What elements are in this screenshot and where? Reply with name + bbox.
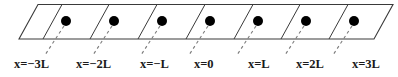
site-position-label-4: x=L xyxy=(248,58,270,71)
lattice-site-dot-3 xyxy=(205,16,215,26)
site-position-label-3: x=0 xyxy=(194,58,214,71)
site-position-label-1: x=−2L xyxy=(76,58,111,71)
lattice-site-dot-6 xyxy=(349,16,359,26)
site-position-label-0: x=−3L xyxy=(14,58,49,71)
site-position-label-6: x=3L xyxy=(352,58,380,71)
lattice-site-dot-5 xyxy=(301,16,311,26)
lattice-site-dot-1 xyxy=(109,16,119,26)
lattice-site-dot-4 xyxy=(253,16,263,26)
site-position-label-2: x=−L xyxy=(140,58,169,71)
site-position-label-5: x=2L xyxy=(296,58,324,71)
lattice-site-dot-0 xyxy=(61,16,71,26)
lattice-site-dot-2 xyxy=(157,16,167,26)
lattice-chain-figure: x=−3Lx=−2Lx=−Lx=0x=Lx=2Lx=3L xyxy=(0,0,398,77)
